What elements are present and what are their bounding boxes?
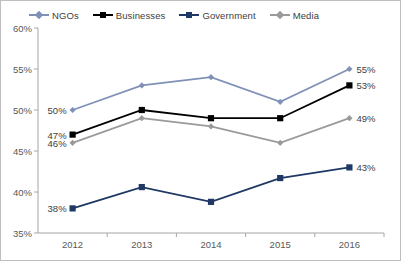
data-point (70, 107, 76, 113)
legend-item-media[interactable]: Media (270, 10, 319, 21)
data-label-media-first: 46% (48, 137, 67, 148)
x-axis-tick-label: 2015 (270, 239, 291, 250)
data-point (208, 199, 214, 205)
legend-marker-media-icon (270, 10, 290, 20)
series-government (70, 164, 353, 211)
data-point (139, 107, 145, 113)
data-label-government-first: 38% (48, 203, 67, 214)
data-point (70, 132, 76, 138)
legend-marker-businesses-icon (93, 10, 113, 20)
data-point (208, 115, 214, 121)
data-point (139, 115, 145, 121)
legend-label: NGOs (52, 10, 79, 21)
data-label-media-last: 49% (356, 113, 375, 124)
data-label-government-last: 43% (356, 162, 375, 173)
line-chart: NGOsBusinessesGovernmentMedia 35%40%45%5… (0, 0, 401, 261)
data-point (208, 123, 214, 129)
y-axis-tick-label: 35% (1, 228, 32, 239)
legend-label: Businesses (116, 10, 166, 21)
legend-item-businesses[interactable]: Businesses (93, 10, 166, 21)
data-point (346, 82, 352, 88)
data-point (139, 82, 145, 88)
data-label-ngos-first: 50% (48, 105, 67, 116)
chart-legend: NGOsBusinessesGovernmentMedia (29, 5, 389, 25)
data-point (346, 164, 352, 170)
x-axis-tick-label: 2014 (200, 239, 221, 250)
series-lines (38, 28, 384, 233)
data-point (346, 66, 352, 72)
x-axis-tick-label: 2013 (131, 239, 152, 250)
y-axis-tick-label: 55% (1, 64, 32, 75)
y-axis-tick-label: 45% (1, 146, 32, 157)
legend-item-ngos[interactable]: NGOs (29, 10, 79, 21)
y-axis-labels: 35%40%45%50%55%60% (1, 28, 34, 233)
data-label-businesses-last: 53% (356, 80, 375, 91)
y-axis-tick-label: 40% (1, 187, 32, 198)
legend-label: Government (202, 10, 255, 21)
legend-item-government[interactable]: Government (179, 10, 255, 21)
data-point (277, 115, 283, 121)
data-point (277, 140, 283, 146)
x-axis-tick-label: 2012 (62, 239, 83, 250)
legend-label: Media (293, 10, 319, 21)
data-label-ngos-last: 55% (356, 64, 375, 75)
data-point (70, 205, 76, 211)
plot-area (38, 28, 384, 233)
data-point (139, 184, 145, 190)
series-ngos (70, 66, 353, 113)
data-point (346, 115, 352, 121)
x-axis-tick-label: 2016 (339, 239, 360, 250)
data-point (208, 74, 214, 80)
legend-marker-government-icon (179, 10, 199, 20)
y-axis-tick-label: 50% (1, 105, 32, 116)
x-axis-labels: 20122013201420152016 (38, 239, 384, 255)
legend-marker-ngos-icon (29, 10, 49, 20)
data-point (277, 99, 283, 105)
data-point (70, 140, 76, 146)
y-axis-tick-label: 60% (1, 23, 32, 34)
data-point (277, 175, 283, 181)
